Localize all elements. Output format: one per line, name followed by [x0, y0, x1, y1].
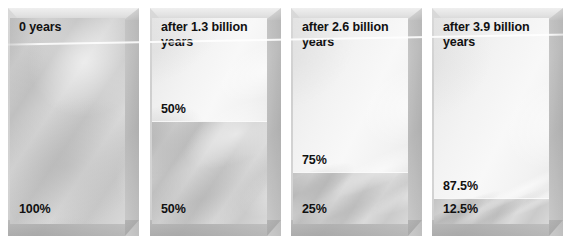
- slab-right-bevel-3: [408, 8, 422, 236]
- parent-region-1: [10, 18, 125, 224]
- time-label-3: after 2.6 billion years: [302, 20, 410, 50]
- split-line-2: [152, 121, 267, 122]
- split-line-3: [293, 172, 408, 173]
- time-label-1: 0 years: [19, 20, 127, 35]
- slab-right-bevel-2: [267, 8, 281, 236]
- split-line-4: [434, 198, 549, 199]
- parent-percent-label-3: 25%: [302, 202, 327, 216]
- time-label-4: after 3.9 billion years: [443, 20, 551, 50]
- daughter-percent-label-4: 87.5%: [443, 179, 478, 193]
- daughter-percent-label-2: 50%: [161, 102, 186, 116]
- decay-panel-2: after 1.3 billion years 50% 50%: [150, 8, 281, 236]
- slab-right-bevel-1: [125, 8, 139, 236]
- slab-face-1: [10, 18, 125, 224]
- decay-panel-1: 0 years 100%: [8, 8, 139, 236]
- decay-diagram: 0 years 100% after 1.3 billion years 50%…: [0, 0, 583, 251]
- parent-percent-label-2: 50%: [161, 202, 186, 216]
- decay-panel-3: after 2.6 billion years 75% 25%: [291, 8, 422, 236]
- time-label-2: after 1.3 billion years: [161, 20, 269, 50]
- parent-percent-label-1: 100%: [19, 202, 51, 216]
- daughter-percent-label-3: 75%: [302, 153, 327, 167]
- parent-region-3: [293, 172, 408, 224]
- parent-percent-label-4: 12.5%: [443, 202, 478, 216]
- slab-right-bevel-4: [549, 8, 563, 236]
- decay-panel-4: after 3.9 billion years 87.5% 12.5%: [432, 8, 563, 236]
